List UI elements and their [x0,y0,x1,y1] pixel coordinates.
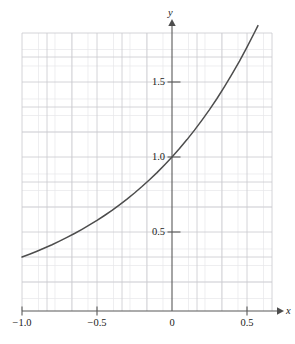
y-tick-label-1-5: 1.5 [141,77,165,88]
grid-vertical-major [22,33,272,311]
data-curve-exponential [22,26,258,257]
y-axis-ticks [168,82,181,232]
y-axis [168,19,175,311]
x-tick-label-0-5: 0.5 [240,318,253,329]
plot-area [0,0,295,344]
y-axis-label: y [168,8,173,19]
x-axis-label: x [286,306,291,317]
x-axis [22,307,284,315]
x-tick-label-neg0-5: −0.5 [87,318,106,329]
y-tick-label-0-5: 0.5 [141,227,165,238]
y-tick-label-1-0: 1.0 [141,152,165,163]
x-tick-label-zero: 0 [169,318,174,329]
x-tick-label-neg1: −1.0 [12,318,31,329]
chart-figure: −1.0 −0.5 0 0.5 1.5 1.0 0.5 y x [0,0,295,344]
